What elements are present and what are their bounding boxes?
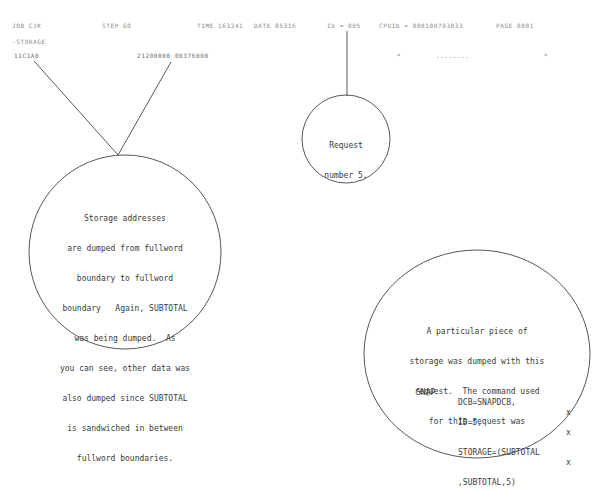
- request-number-note: Request number 5.: [302, 121, 390, 191]
- pointer-line-contents: [118, 62, 171, 155]
- code-line: ID=5, x: [416, 408, 576, 418]
- code-line: STORAGE=(SUBTOTAL x: [416, 438, 576, 448]
- note-line: fullword boundaries.: [30, 454, 220, 464]
- note-line: also dumped since SUBTOTAL: [30, 394, 220, 404]
- storage-addresses-note: Storage addresses are dumped from fullwo…: [30, 194, 220, 474]
- macro-operand: DCB=SNAPDCB,: [458, 398, 516, 408]
- note-line: Storage addresses: [30, 214, 220, 224]
- note-line: number 5.: [302, 171, 390, 181]
- note-line: is sandwiched in between: [30, 424, 220, 434]
- note-line: are dumped from fullword: [30, 244, 220, 254]
- note-line: Request: [302, 141, 390, 151]
- note-line: boundary Again, SUBTOTAL: [30, 304, 220, 314]
- macro-name: SNAP: [416, 388, 435, 398]
- macro-operand: STORAGE=(SUBTOTAL: [458, 448, 540, 458]
- note-line: you can see, other data was: [30, 364, 220, 374]
- note-line: was being dumped. As: [30, 334, 220, 344]
- code-line: ,SUBTOTAL,5): [416, 468, 576, 478]
- macro-operand: ID=5,: [458, 418, 482, 428]
- continuation-mark: x: [566, 428, 571, 438]
- note-line: A particular piece of: [376, 327, 578, 337]
- note-line: boundary to fullword: [30, 274, 220, 284]
- continuation-mark: x: [566, 458, 571, 468]
- snap-macro-code: SNAP DCB=SNAPDCB, x ID=5, x STORAGE=(SUB…: [416, 358, 576, 488]
- code-line: SNAP DCB=SNAPDCB, x: [416, 378, 576, 388]
- macro-operand: ,SUBTOTAL,5): [458, 478, 516, 488]
- pointer-line-address: [34, 61, 118, 155]
